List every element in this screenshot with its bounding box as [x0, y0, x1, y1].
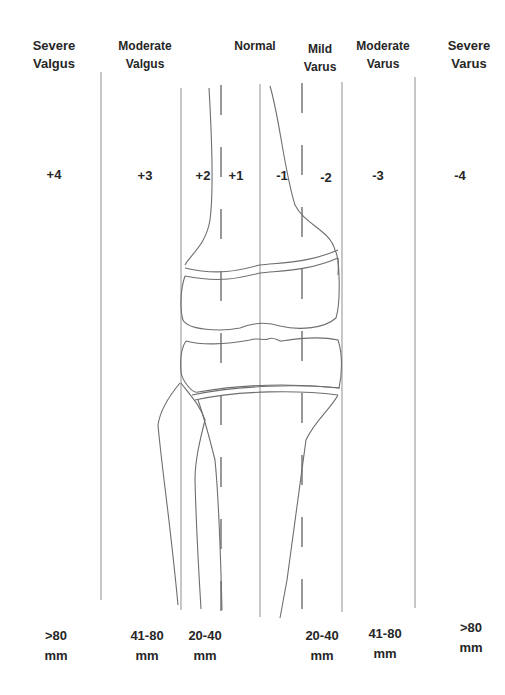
grade-minus-4: -4	[454, 168, 466, 183]
label-mild-varus: Mild Varus	[304, 40, 337, 76]
grade-minus-3: -3	[372, 168, 384, 183]
label-normal: Normal	[234, 37, 275, 55]
grade-plus-4: +4	[47, 167, 62, 182]
label-severe-varus: Severe Varus	[448, 37, 491, 73]
label-moderate-varus: Moderate Varus	[356, 37, 409, 73]
knee-alignment-diagram	[0, 0, 505, 695]
distance-severe-varus: >80 mm	[459, 618, 482, 658]
tibia-outline	[198, 395, 338, 618]
distance-mild-valgus: 20-40 mm	[188, 626, 221, 666]
zone-boundary-lines	[101, 72, 415, 617]
distance-mild-varus: 20-40 mm	[305, 626, 338, 666]
dashed-reference-lines	[221, 83, 302, 628]
grade-plus-2: +2	[196, 168, 211, 183]
grade-plus-3: +3	[138, 168, 153, 183]
label-moderate-valgus: Moderate Valgus	[118, 37, 171, 73]
distance-moderate-valgus: 41-80 mm	[130, 626, 163, 666]
grade-minus-2: -2	[320, 170, 332, 185]
grade-plus-1: +1	[229, 168, 244, 183]
distance-severe-valgus: >80 mm	[44, 626, 67, 666]
grade-minus-1: -1	[276, 168, 288, 183]
distance-moderate-varus: 41-80 mm	[368, 624, 401, 664]
label-severe-valgus: Severe Valgus	[33, 37, 76, 73]
tibial-plateau	[181, 338, 342, 400]
